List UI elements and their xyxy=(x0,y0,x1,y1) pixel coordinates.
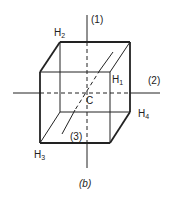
vertex-h2: H2 xyxy=(54,27,65,39)
vertex-h3: H3 xyxy=(34,149,45,161)
vertex-h4: H4 xyxy=(138,108,149,120)
cube-axes-diagram: (1) (2) (3) C H2 H1 H4 H3 (b) xyxy=(0,0,171,202)
axis-1-label: (1) xyxy=(91,14,103,25)
cube-edge-top-right xyxy=(110,42,130,72)
cube-edge-bottom-left xyxy=(40,112,60,143)
center-label: C xyxy=(86,95,93,106)
axis-2-label: (2) xyxy=(148,75,160,86)
axis-3-upper xyxy=(100,52,113,70)
vertex-h1: H1 xyxy=(112,74,123,86)
axis-3-label: (3) xyxy=(70,131,82,142)
cube-edge-bottom-right xyxy=(110,112,130,143)
cube-edge-top-left xyxy=(40,42,60,72)
cube-back-face xyxy=(60,42,130,112)
figure-caption: (b) xyxy=(79,178,91,189)
